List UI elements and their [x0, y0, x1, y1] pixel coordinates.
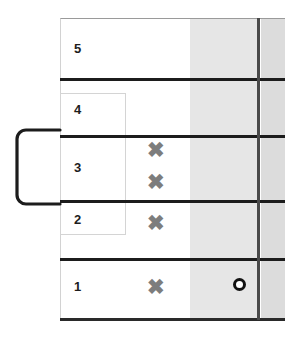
row-divider-3-2	[60, 200, 285, 203]
row-label-5: 5	[74, 41, 104, 56]
x-mark-icon-row1: ✖	[145, 276, 167, 298]
x-mark-icon-row3-lower: ✖	[145, 171, 167, 193]
row-label-3: 3	[74, 160, 104, 175]
row-divider-5-4	[60, 78, 285, 81]
table-bottom-border	[60, 318, 285, 321]
column-divider	[257, 18, 260, 320]
x-mark-icon-row3-upper: ✖	[145, 139, 167, 161]
circle-mark-icon-row1	[233, 278, 246, 291]
x-mark-icon-row2: ✖	[145, 212, 167, 234]
row-divider-4-3	[60, 135, 285, 138]
row-label-1: 1	[74, 279, 104, 294]
row-divider-2-1	[60, 258, 285, 261]
row-label-2: 2	[74, 212, 104, 227]
grouping-bracket-icon	[14, 127, 62, 207]
diagram-canvas: 5 4 3 2 1 ✖ ✖ ✖ ✖	[0, 0, 300, 338]
row-label-4: 4	[74, 102, 104, 117]
